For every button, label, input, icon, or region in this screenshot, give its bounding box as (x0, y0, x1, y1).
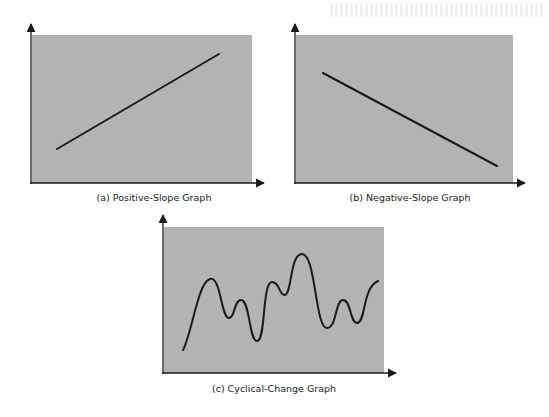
figure: (a) Positive-Slope Graph (b) Negative-Sl… (0, 0, 549, 417)
panel-b-negative-slope: (b) Negative-Slope Graph (294, 24, 525, 203)
caption-b: (b) Negative-Slope Graph (349, 192, 470, 203)
panel-a-positive-slope: (a) Positive-Slope Graph (30, 24, 264, 203)
caption-c: (c) Cyclical-Change Graph (212, 383, 336, 394)
plot-area (32, 35, 252, 183)
panel-c-cyclical-change: (c) Cyclical-Change Graph (162, 215, 396, 394)
plot-area (296, 35, 513, 183)
plot-area (164, 227, 384, 373)
caption-a: (a) Positive-Slope Graph (97, 192, 212, 203)
